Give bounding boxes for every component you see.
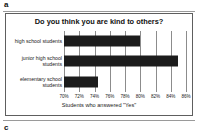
x-tick-label: 78%: [120, 94, 129, 100]
x-axis-title: Students who answered "Yes": [6, 102, 192, 109]
bar-row: [64, 31, 186, 51]
value-axis-ticks: 70%72%74%76%78%80%82%84%86%: [64, 94, 186, 102]
category-label: high school students: [8, 31, 64, 51]
category-label: elementary school students: [8, 72, 64, 92]
x-tick-label: 72%: [75, 94, 84, 100]
plot-area: [64, 31, 186, 92]
bar: [64, 56, 178, 67]
panel-label-a: a: [4, 1, 8, 9]
panel-divider-bottom: [3, 120, 195, 121]
x-tick-label: 82%: [151, 94, 160, 100]
panel-divider-top: [3, 11, 195, 12]
panel-label-c: c: [4, 124, 8, 132]
bar-chart: Do you think you are kind to others? hig…: [5, 13, 193, 116]
x-tick-label: 80%: [136, 94, 145, 100]
bar: [64, 36, 140, 47]
x-tick-label: 70%: [59, 94, 68, 100]
figure-panel: a Do you think you are kind to others? h…: [0, 0, 199, 135]
category-axis-labels: high school studentsjunior high school s…: [8, 31, 64, 92]
bar-row: [64, 51, 186, 71]
bar-row: [64, 72, 186, 92]
x-tick-label: 84%: [166, 94, 175, 100]
x-tick-label: 86%: [181, 94, 190, 100]
bar-series: [64, 31, 186, 92]
chart-title: Do you think you are kind to others?: [6, 17, 192, 26]
category-label: junior high school students: [8, 51, 64, 71]
bar: [64, 76, 98, 87]
x-tick-label: 76%: [105, 94, 114, 100]
gridline: [186, 31, 187, 92]
x-tick-label: 74%: [90, 94, 99, 100]
